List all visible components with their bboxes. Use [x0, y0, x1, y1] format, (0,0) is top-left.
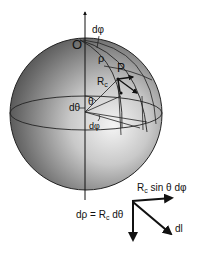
label-dphi-top: dφ	[92, 24, 105, 35]
sphere	[10, 38, 162, 190]
vd-h-main: R	[137, 182, 144, 193]
vd-diagonal-label: dl	[175, 223, 183, 234]
label-radius-sub: c	[104, 81, 108, 88]
vd-horizontal-arrow	[132, 198, 172, 201]
label-dphi-bottom: dφ	[89, 121, 100, 131]
label-P: P	[117, 61, 125, 75]
vd-v-pre: dρ = R	[76, 209, 106, 220]
vd-v-rest: dθ	[109, 209, 123, 220]
label-radius-main: R	[97, 76, 104, 87]
sphere-diagram: O dφ ρ P Rc θ dθ dφ Rc sin θ dφ dρ = Rc …	[0, 0, 198, 254]
label-theta: θ	[88, 96, 94, 107]
vd-h-rest: sin θ dφ	[148, 182, 187, 193]
label-dtheta: dθ	[69, 102, 81, 113]
vd-diagonal-arrow	[133, 202, 171, 234]
label-rho: ρ	[98, 52, 104, 64]
vd-vertical-label: dρ = Rc dθ	[76, 209, 124, 221]
vd-horizontal-label: Rc sin θ dφ	[137, 182, 187, 194]
label-origin: O	[72, 37, 82, 52]
